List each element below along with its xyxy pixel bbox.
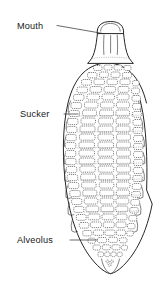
alveolus bbox=[99, 174, 114, 180]
alveolus bbox=[117, 102, 130, 108]
alveolus bbox=[131, 200, 140, 206]
alveolus bbox=[98, 150, 114, 156]
alveolus bbox=[88, 214, 100, 220]
alveolus bbox=[117, 230, 126, 235]
alveolus bbox=[68, 119, 79, 125]
alveolus bbox=[105, 252, 110, 257]
alveolus bbox=[66, 167, 77, 173]
alveolus bbox=[134, 144, 144, 150]
alveolus bbox=[80, 134, 96, 140]
alveolus bbox=[82, 80, 92, 86]
alveolus bbox=[104, 87, 116, 93]
alveolus bbox=[83, 110, 97, 116]
alveolus bbox=[98, 126, 113, 132]
alveolus bbox=[80, 166, 96, 172]
alveolus bbox=[85, 102, 99, 108]
alveolus bbox=[84, 198, 98, 204]
alveolus bbox=[74, 95, 85, 101]
papilla bbox=[106, 260, 109, 263]
alveolus bbox=[120, 238, 128, 243]
alveolus bbox=[74, 207, 84, 213]
alveolus bbox=[117, 134, 131, 140]
alveolus bbox=[103, 222, 114, 228]
alveolus bbox=[76, 215, 86, 221]
alveolus bbox=[118, 87, 129, 93]
alveolus bbox=[127, 231, 134, 236]
alveolus bbox=[116, 118, 130, 124]
alveolus bbox=[65, 143, 76, 149]
alveolus bbox=[88, 238, 96, 243]
alveolus bbox=[132, 88, 140, 94]
alveolus bbox=[83, 190, 97, 196]
alveolus bbox=[100, 190, 114, 196]
alveolus bbox=[81, 174, 96, 180]
alveolus bbox=[94, 230, 104, 235]
alveolus bbox=[65, 151, 76, 157]
alveolus bbox=[133, 128, 143, 134]
figure-root: Mouth Sucker Alveolus bbox=[0, 0, 158, 288]
alveolus bbox=[81, 118, 96, 124]
alveolus bbox=[123, 73, 132, 78]
alveolus bbox=[68, 183, 79, 189]
alveolus bbox=[69, 111, 80, 117]
alveolus bbox=[100, 110, 114, 116]
alveolus bbox=[104, 65, 112, 70]
alveolus bbox=[117, 94, 129, 100]
alveolus bbox=[117, 166, 131, 172]
alveolus bbox=[66, 135, 77, 141]
mouth-leader-line bbox=[57, 26, 103, 34]
alveolus bbox=[133, 176, 143, 182]
alveolus bbox=[111, 252, 116, 257]
alveolus bbox=[93, 245, 101, 250]
alveolus bbox=[94, 79, 105, 85]
alveolus bbox=[130, 208, 139, 214]
mouth-region-group bbox=[88, 21, 134, 63]
alveolus bbox=[114, 65, 122, 70]
alveolus bbox=[99, 182, 114, 188]
alveolus bbox=[100, 198, 114, 204]
alveolus bbox=[102, 94, 115, 100]
alveolus bbox=[91, 222, 102, 228]
alveolus bbox=[112, 245, 120, 250]
alveolus bbox=[71, 103, 82, 109]
alveolus bbox=[83, 231, 92, 236]
alveolus bbox=[133, 112, 142, 118]
alveolus bbox=[116, 214, 127, 220]
alveolus bbox=[66, 159, 77, 165]
alveolus bbox=[111, 72, 120, 77]
alveolus bbox=[80, 126, 95, 132]
alveolus bbox=[132, 192, 141, 198]
alveolus bbox=[134, 160, 144, 166]
papilla bbox=[108, 264, 111, 267]
alveolus bbox=[132, 184, 141, 190]
alveolus bbox=[86, 206, 99, 212]
alveolus bbox=[133, 81, 140, 86]
alveolus bbox=[116, 222, 126, 228]
alveolus bbox=[117, 182, 131, 188]
alveolus bbox=[94, 66, 103, 71]
alveolus bbox=[116, 198, 129, 204]
alveolus bbox=[79, 223, 89, 229]
alveolus bbox=[105, 230, 115, 235]
alveolus bbox=[128, 224, 136, 229]
alveolus bbox=[122, 245, 128, 250]
alveolus bbox=[67, 175, 78, 181]
label-sucker: Sucker bbox=[20, 109, 50, 119]
alveolus-labeled bbox=[98, 238, 107, 243]
alveolus bbox=[67, 127, 78, 133]
alveolus bbox=[134, 152, 144, 158]
alveolus bbox=[87, 94, 100, 100]
alveolus bbox=[72, 199, 82, 205]
alveolus bbox=[101, 206, 114, 212]
alveolus bbox=[88, 73, 98, 78]
papilla bbox=[110, 260, 113, 263]
alveolus bbox=[79, 150, 95, 156]
alveolus bbox=[117, 150, 131, 156]
alveolus bbox=[124, 66, 131, 71]
alveolus bbox=[77, 87, 88, 93]
alveolus bbox=[132, 96, 141, 102]
alveolus bbox=[100, 72, 109, 77]
alveolus bbox=[102, 214, 114, 220]
alveolus bbox=[117, 252, 122, 256]
alveolus bbox=[79, 158, 95, 164]
